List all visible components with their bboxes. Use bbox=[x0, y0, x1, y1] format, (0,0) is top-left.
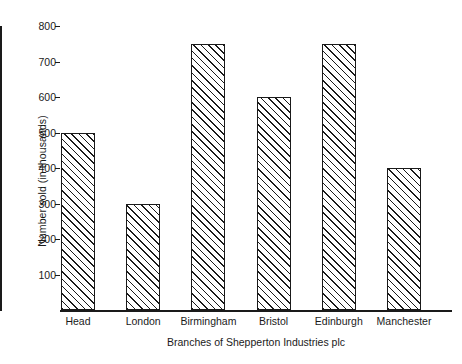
bar bbox=[322, 44, 356, 310]
y-axis-tick-label: 700 bbox=[38, 56, 56, 67]
y-axis-tick-label: 100 bbox=[38, 269, 56, 280]
y-axis-line bbox=[0, 26, 2, 311]
y-axis-tick-label: 200 bbox=[38, 234, 56, 245]
x-axis-title: Branches of Shepperton Industries plc bbox=[60, 336, 452, 348]
x-axis-line bbox=[60, 310, 452, 312]
y-axis-tick-label: 800 bbox=[38, 21, 56, 32]
x-axis-tick-label: Bristol bbox=[259, 316, 288, 327]
x-axis-tick-label: Birmingham bbox=[180, 316, 236, 327]
bar bbox=[191, 44, 225, 310]
bar bbox=[61, 133, 95, 311]
y-axis-tick-label: 300 bbox=[38, 198, 56, 209]
x-axis-tick-label: Head bbox=[65, 316, 90, 327]
bar bbox=[257, 97, 291, 310]
x-axis-tick-label: London bbox=[126, 316, 161, 327]
bar-chart: Number sold (in thousands) 1002003004005… bbox=[0, 0, 462, 364]
x-axis-tick-label: Edinburgh bbox=[315, 316, 363, 327]
y-axis-tick-label: 500 bbox=[38, 127, 56, 138]
y-axis-title: Number sold (in thousands) bbox=[36, 76, 48, 286]
bar bbox=[126, 204, 160, 311]
y-axis-tick-label: 600 bbox=[38, 92, 56, 103]
x-axis-tick-label: Manchester bbox=[377, 316, 432, 327]
y-axis-tick-label: 400 bbox=[38, 163, 56, 174]
bar bbox=[387, 168, 421, 310]
